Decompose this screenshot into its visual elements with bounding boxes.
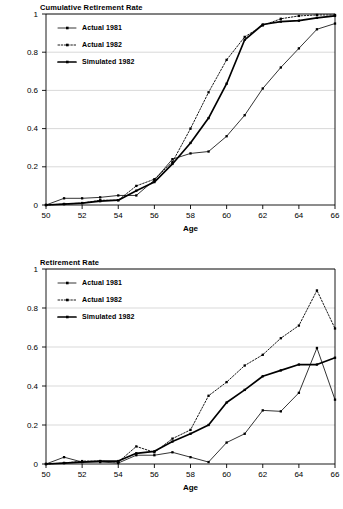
data-point-marker: [63, 197, 65, 199]
legend-swatch-marker: [66, 282, 69, 285]
data-point-marker: [316, 347, 318, 349]
data-point-marker: [225, 401, 227, 403]
legend-swatch-marker: [66, 27, 69, 30]
data-point-marker: [244, 39, 246, 41]
legend-label-actual-1981: Actual 1981: [82, 24, 122, 32]
legend-label-actual-1982: Actual 1982: [82, 41, 122, 49]
data-point-marker: [171, 438, 173, 440]
data-point-marker: [117, 460, 119, 462]
data-point-marker: [117, 194, 119, 196]
data-point-marker: [207, 461, 209, 463]
data-point-marker: [171, 451, 173, 453]
x-axis-tick-label: 58: [179, 211, 203, 220]
data-point-marker: [207, 395, 209, 397]
y-axis-tick-label: 0.6: [16, 343, 38, 352]
data-point-marker: [63, 462, 65, 464]
data-point-marker: [298, 47, 300, 49]
x-axis-tick-label: 62: [251, 470, 275, 479]
data-point-marker: [45, 204, 47, 206]
legend-label-actual-1981: Actual 1981: [82, 279, 122, 287]
data-point-marker: [225, 441, 227, 443]
legend-swatch-marker: [66, 61, 69, 64]
x-axis-tick-label: 58: [179, 470, 203, 479]
series-line-actual-1981: [46, 24, 335, 205]
data-point-marker: [262, 354, 264, 356]
legend-swatch-marker: [66, 44, 69, 47]
data-point-marker: [316, 14, 318, 16]
y-axis-tick-label: 0: [16, 201, 38, 210]
data-point-marker: [334, 327, 336, 329]
data-point-marker: [189, 142, 191, 144]
x-axis-tick-label: 62: [251, 211, 275, 220]
data-point-marker: [207, 117, 209, 119]
data-point-marker: [316, 17, 318, 19]
data-point-marker: [189, 127, 191, 129]
data-point-marker: [135, 185, 137, 187]
data-point-marker: [135, 445, 137, 447]
data-point-marker: [63, 456, 65, 458]
y-axis-tick-label: 0: [16, 460, 38, 469]
data-point-marker: [262, 375, 264, 377]
data-point-marker: [81, 461, 83, 463]
data-point-marker: [244, 433, 246, 435]
y-axis-tick-label: 0.4: [16, 124, 38, 133]
data-point-marker: [81, 197, 83, 199]
data-point-marker: [316, 363, 318, 365]
data-point-marker: [244, 114, 246, 116]
data-point-marker: [45, 463, 47, 465]
data-point-marker: [171, 163, 173, 165]
data-point-marker: [207, 91, 209, 93]
legend-label-actual-1982: Actual 1982: [82, 296, 122, 304]
y-axis-tick-label: 1: [16, 10, 38, 19]
x-axis-tick-label: 52: [70, 211, 94, 220]
legend-swatch-marker: [66, 299, 69, 302]
x-axis-tick-label: 64: [287, 211, 311, 220]
x-axis-title: Age: [171, 224, 211, 234]
data-point-marker: [135, 194, 137, 196]
data-point-marker: [244, 36, 246, 38]
data-point-marker: [189, 456, 191, 458]
y-axis-tick-label: 0.8: [16, 48, 38, 57]
retirement-rate-chart: Retirement Rate 00.20.40.60.815052545658…: [0, 255, 343, 509]
x-axis-tick-label: 52: [70, 470, 94, 479]
data-point-marker: [280, 410, 282, 412]
y-axis-tick-label: 0.6: [16, 86, 38, 95]
data-point-marker: [334, 357, 336, 359]
data-point-marker: [153, 450, 155, 452]
data-point-marker: [280, 66, 282, 68]
data-point-marker: [334, 399, 336, 401]
legend-label-simulated-1982: Simulated 1982: [82, 58, 134, 66]
legend-label-simulated-1982: Simulated 1982: [82, 313, 134, 321]
cumulative-retirement-rate-chart: Cumulative Retirement Rate 00.20.40.60.8…: [0, 0, 343, 250]
data-point-marker: [189, 433, 191, 435]
x-axis-tick-label: 66: [323, 470, 343, 479]
data-point-marker: [99, 196, 101, 198]
data-point-marker: [99, 200, 101, 202]
data-point-marker: [153, 181, 155, 183]
data-point-marker: [225, 381, 227, 383]
x-axis-tick-label: 66: [323, 211, 343, 220]
data-point-marker: [262, 409, 264, 411]
legend-swatch-marker: [66, 316, 69, 319]
data-point-marker: [207, 424, 209, 426]
data-point-marker: [63, 203, 65, 205]
data-point-marker: [135, 452, 137, 454]
data-point-marker: [99, 460, 101, 462]
data-point-marker: [189, 429, 191, 431]
x-axis-tick-label: 64: [287, 470, 311, 479]
data-point-marker: [280, 337, 282, 339]
data-point-marker: [207, 150, 209, 152]
x-axis-tick-label: 54: [106, 470, 130, 479]
data-point-marker: [153, 454, 155, 456]
data-point-marker: [225, 59, 227, 61]
y-axis-tick-label: 0.8: [16, 304, 38, 313]
data-point-marker: [225, 83, 227, 85]
x-axis-tick-label: 50: [34, 470, 58, 479]
x-axis-tick-label: 56: [142, 470, 166, 479]
series-line-actual-1981: [46, 348, 335, 464]
y-axis-tick-label: 1: [16, 265, 38, 274]
data-point-marker: [298, 15, 300, 17]
data-point-marker: [280, 369, 282, 371]
data-point-marker: [225, 135, 227, 137]
data-point-marker: [244, 364, 246, 366]
